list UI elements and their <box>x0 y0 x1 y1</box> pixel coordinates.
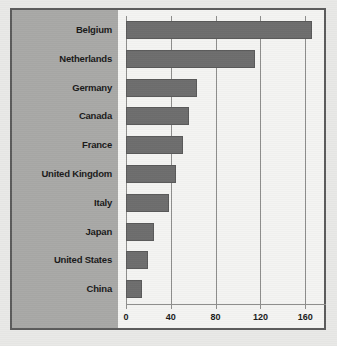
category-label-belgium: Belgium <box>76 23 112 37</box>
chart-frame: BelgiumNetherlandsGermanyCanadaFranceUni… <box>10 8 326 330</box>
bar-italy <box>126 194 169 212</box>
bar-china <box>126 280 142 298</box>
category-label-list: BelgiumNetherlandsGermanyCanadaFranceUni… <box>12 16 118 304</box>
x-tick-label-40: 40 <box>156 312 186 322</box>
category-label-china: China <box>87 282 112 296</box>
bar-united-states <box>126 251 148 269</box>
x-tick-mark-120 <box>260 304 261 309</box>
category-label-united-kingdom: United Kingdom <box>41 167 112 181</box>
bar-row <box>118 218 328 246</box>
bar-row <box>118 189 328 217</box>
x-tick-label-0: 0 <box>111 312 141 322</box>
bar-row <box>118 275 328 303</box>
x-tick-label-120: 120 <box>245 312 275 322</box>
x-tick-mark-80 <box>216 304 217 309</box>
bar-germany <box>126 79 197 97</box>
bar-japan <box>126 223 154 241</box>
x-tick-mark-160 <box>305 304 306 309</box>
x-tick-label-160: 160 <box>290 312 320 322</box>
plot-inner <box>118 16 324 304</box>
bar-united-kingdom <box>126 165 176 183</box>
category-label-japan: Japan <box>86 225 112 239</box>
bar-belgium <box>126 21 312 39</box>
category-axis-panel: BelgiumNetherlandsGermanyCanadaFranceUni… <box>12 10 118 328</box>
category-label-netherlands: Netherlands <box>59 52 112 66</box>
category-label-canada: Canada <box>79 109 112 123</box>
bar-row <box>118 45 328 73</box>
bar-row <box>118 74 328 102</box>
bar-row <box>118 160 328 188</box>
plot-area: 04080120160 <box>118 10 324 328</box>
axis-baseline <box>126 304 326 305</box>
category-label-germany: Germany <box>72 81 112 95</box>
x-tick-mark-40 <box>171 304 172 309</box>
bar-row <box>118 102 328 130</box>
x-tick-mark-0 <box>126 304 127 309</box>
bar-row <box>118 246 328 274</box>
x-tick-label-80: 80 <box>201 312 231 322</box>
bar-netherlands <box>126 50 255 68</box>
chart-screenshot: BelgiumNetherlandsGermanyCanadaFranceUni… <box>0 0 337 346</box>
category-label-france: France <box>82 138 112 152</box>
bar-canada <box>126 107 189 125</box>
category-label-italy: Italy <box>94 196 112 210</box>
bar-row <box>118 131 328 159</box>
category-label-united-states: United States <box>54 253 112 267</box>
bar-france <box>126 136 183 154</box>
bar-row <box>118 16 328 44</box>
